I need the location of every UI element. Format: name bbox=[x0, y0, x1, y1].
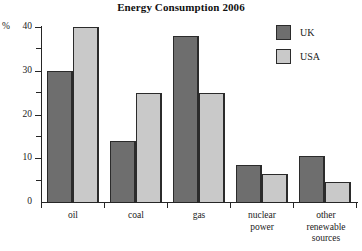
bar-uk-gas bbox=[173, 36, 199, 202]
x-axis-label-gas: gas bbox=[168, 210, 230, 222]
x-tick-5 bbox=[356, 203, 357, 208]
chart-title: Energy Consumption 2006 bbox=[0, 1, 362, 13]
x-axis-label-oil-line1: oil bbox=[42, 210, 104, 222]
bar-usa-coal bbox=[136, 93, 162, 202]
x-tick-1 bbox=[104, 203, 105, 208]
x-axis-label-coal: coal bbox=[105, 210, 167, 222]
x-tick-0 bbox=[41, 203, 42, 208]
bar-uk-nuclear-power bbox=[236, 165, 262, 202]
x-axis-label-nuclear-power: nuclear power bbox=[231, 210, 293, 233]
y-axis-label-20: 20 bbox=[10, 109, 32, 119]
y-axis-label-30: 30 bbox=[10, 65, 32, 75]
x-axis-label-gas-line1: gas bbox=[168, 210, 230, 222]
bar-usa-nuclear-power bbox=[262, 174, 288, 202]
energy-consumption-bar-chart: Energy Consumption 2006 UK USA % 40 30 2… bbox=[0, 0, 362, 251]
y-axis-unit-label: % bbox=[2, 21, 10, 31]
x-axis-label-other-renewable-sources: other renewable sources bbox=[294, 210, 358, 245]
y-axis-label-10: 10 bbox=[10, 152, 32, 162]
x-axis-label-nuclear-line2: power bbox=[231, 222, 293, 234]
x-axis-line bbox=[41, 202, 358, 203]
x-axis-label-renewable-line1: other bbox=[294, 210, 358, 222]
x-tick-2 bbox=[167, 203, 168, 208]
x-axis-label-coal-line1: coal bbox=[105, 210, 167, 222]
bar-usa-other-renewable bbox=[325, 182, 351, 202]
bar-usa-oil bbox=[73, 27, 99, 202]
y-axis-label-40: 40 bbox=[10, 21, 32, 31]
bar-uk-coal bbox=[110, 141, 136, 202]
x-axis-label-oil: oil bbox=[42, 210, 104, 222]
y-axis-label-0: 0 bbox=[10, 196, 32, 206]
x-axis-label-renewable-line2: renewable bbox=[294, 222, 358, 234]
x-tick-4 bbox=[293, 203, 294, 208]
x-tick-3 bbox=[230, 203, 231, 208]
bar-uk-oil bbox=[47, 71, 73, 202]
x-axis-label-nuclear-line1: nuclear bbox=[231, 210, 293, 222]
bar-uk-other-renewable bbox=[299, 156, 325, 202]
plot-area bbox=[41, 27, 358, 202]
x-axis-label-renewable-line3: sources bbox=[294, 233, 358, 245]
bar-usa-gas bbox=[199, 93, 225, 202]
